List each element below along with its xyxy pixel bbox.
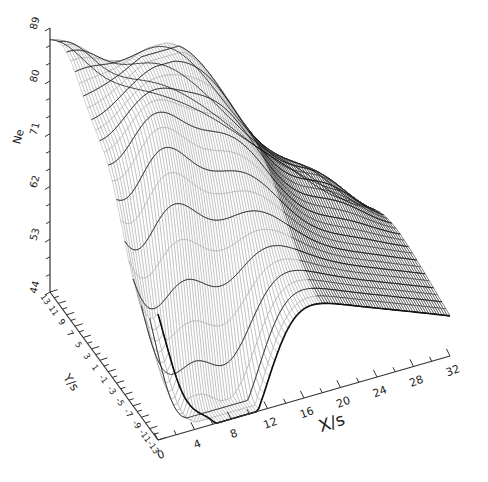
y-tick-label: 3 [81, 351, 92, 361]
y-tick-label: 9 [56, 317, 67, 327]
z-tick-label: 71 [28, 121, 42, 136]
x-tick-label: 20 [335, 394, 353, 411]
y-tick-label: 13 [38, 292, 52, 307]
y-tick-label: -1 [97, 373, 110, 386]
y-tick-label: 5 [73, 340, 84, 350]
x-tick-label: 12 [262, 415, 280, 432]
y-tick-label: -3 [105, 384, 118, 397]
z-tick-label: 89 [28, 16, 42, 31]
z-tick-label: 44 [28, 280, 42, 295]
x-tick-label: 16 [298, 404, 316, 421]
z-tick-label: 53 [28, 227, 42, 242]
y-tick-label: 1 [90, 362, 101, 372]
y-tick-label: 11 [47, 303, 61, 318]
x-tick-label: 32 [444, 362, 462, 379]
x-tick-label: 28 [408, 373, 426, 390]
y-tick-label: 7 [65, 328, 76, 338]
x-tick-label: 8 [228, 426, 239, 441]
x-tick-label: 24 [371, 383, 389, 400]
z-axis-title: Ne [10, 128, 26, 146]
x-axis-title: X/s [316, 409, 347, 436]
wireframe-surface [50, 40, 450, 424]
y-tick-label: -7 [122, 407, 135, 420]
z-tick-label: 80 [28, 68, 42, 83]
x-tick-label: 0 [155, 447, 166, 462]
surface-plot: 898071625344Ne131197531-1-3-5-7-9-11-13Y… [0, 0, 488, 482]
y-tick-label: -5 [114, 395, 127, 408]
y-axis-title: Y/s [60, 370, 82, 393]
x-tick-label: 4 [192, 437, 203, 452]
z-tick-label: 62 [28, 174, 42, 189]
